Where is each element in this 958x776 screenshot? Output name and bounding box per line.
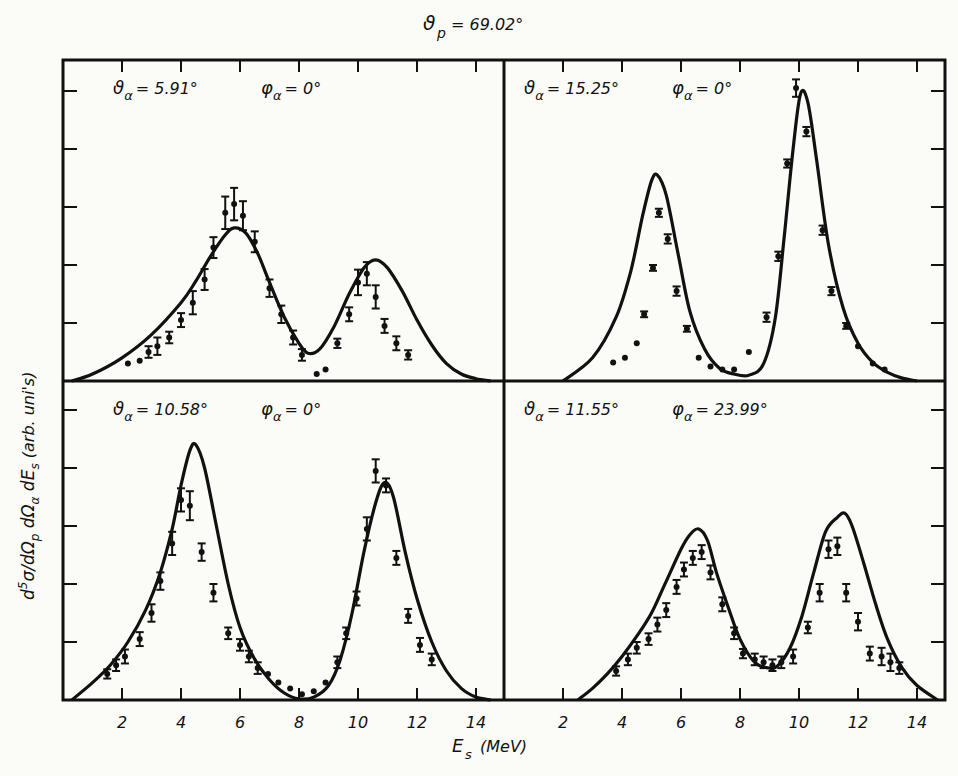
- data-point: [653, 618, 661, 632]
- data-point: [372, 459, 380, 482]
- data-point: [833, 538, 841, 555]
- panel-annotation: ϑα= 10.58°φα= 0°: [113, 398, 321, 424]
- x-tick-label: 2: [117, 713, 127, 732]
- x-axis-label: E s (MeV): [452, 735, 527, 762]
- panel-bottom-left: ϑα= 10.58°φα= 0°: [63, 398, 491, 700]
- data-point: [198, 543, 206, 560]
- x-tick-label: 10: [789, 713, 809, 732]
- data-point: [802, 127, 810, 136]
- x-tick-label: 12: [848, 713, 868, 732]
- x-tick-label: 14: [907, 713, 927, 732]
- phi-alpha-label: φα= 0°: [672, 77, 732, 103]
- data-point: [323, 680, 329, 686]
- x-tick-label: 8: [294, 713, 304, 732]
- data-point: [333, 339, 341, 348]
- data-point: [854, 613, 862, 630]
- data-point: [610, 359, 616, 365]
- data-point: [275, 680, 281, 686]
- data-point: [789, 650, 797, 664]
- panel-annotation: ϑα= 11.55°φα= 23.99°: [524, 398, 768, 424]
- data-point: [221, 197, 229, 229]
- data-point: [640, 311, 648, 317]
- panel-bottom-right: ϑα= 11.55°φα= 23.99°: [524, 398, 945, 700]
- x-tick-label: 4: [176, 713, 186, 732]
- theory-curve: [563, 90, 917, 381]
- panel-annotation: ϑα= 5.91°φα= 0°: [113, 77, 321, 103]
- data-point: [763, 313, 771, 322]
- data-points: [610, 79, 887, 372]
- theory-curve: [72, 443, 491, 700]
- data-point: [311, 688, 317, 694]
- data-point: [696, 355, 702, 361]
- title-symbol: ϑ: [423, 11, 435, 35]
- data-point: [289, 331, 297, 345]
- data-point: [683, 326, 691, 332]
- data-point: [895, 662, 903, 674]
- x-tick-labels: 24681012142468101214: [117, 713, 927, 732]
- data-point: [622, 355, 628, 361]
- x-tick-label: 10: [348, 713, 368, 732]
- data-point: [886, 654, 894, 671]
- data-point: [731, 366, 737, 372]
- panel-top-left: ϑα= 5.91°φα= 0°: [63, 60, 491, 381]
- title-subscript: p: [436, 25, 446, 41]
- data-point: [230, 188, 238, 220]
- data-point: [239, 201, 247, 230]
- data-point: [209, 584, 217, 601]
- theta-alpha-label: ϑα= 15.25°: [524, 77, 619, 103]
- data-point: [381, 319, 389, 333]
- data-point: [156, 572, 164, 589]
- data-point: [649, 265, 657, 271]
- data-point: [299, 691, 305, 697]
- data-point: [189, 291, 197, 314]
- data-point: [251, 231, 259, 252]
- data-point: [842, 323, 850, 329]
- data-point: [866, 647, 874, 661]
- data-point: [392, 551, 400, 565]
- title-value: = 69.02°: [451, 15, 523, 34]
- chart-title: ϑ p = 69.02°: [423, 11, 523, 41]
- theory-curve: [72, 228, 491, 381]
- data-point: [428, 654, 436, 666]
- x-tick-label: 12: [407, 713, 427, 732]
- data-point: [855, 343, 861, 349]
- data-point: [186, 491, 194, 520]
- y-axis-label: d5σ/dΩp dΩα dEs (arb. uni's): [16, 372, 42, 600]
- data-point: [664, 234, 672, 243]
- data-points: [103, 459, 436, 697]
- data-point: [145, 346, 153, 358]
- data-point: [673, 286, 681, 295]
- data-point: [707, 565, 715, 579]
- data-point: [816, 584, 824, 601]
- data-point: [323, 366, 329, 372]
- data-point: [882, 366, 888, 372]
- data-point: [825, 541, 833, 558]
- x-tick-label: 6: [676, 713, 686, 732]
- theory-curve: [578, 513, 938, 700]
- data-point: [870, 361, 876, 367]
- figure: ϑ p = 69.02° d5σ/dΩp dΩα dEs (arb. uni's…: [0, 0, 958, 776]
- data-point: [287, 685, 293, 691]
- data-point: [136, 632, 144, 646]
- plot-frame: [63, 60, 945, 700]
- data-point: [804, 622, 812, 634]
- data-point: [314, 371, 320, 377]
- x-tick-label: 8: [735, 713, 745, 732]
- data-point: [372, 285, 380, 308]
- data-point: [265, 671, 271, 677]
- data-point: [634, 340, 640, 346]
- data-point: [662, 603, 670, 617]
- data-point: [153, 338, 161, 355]
- data-point: [236, 639, 244, 651]
- data-point: [345, 307, 353, 321]
- data-point: [827, 287, 835, 295]
- data-point: [698, 545, 706, 559]
- data-point: [673, 580, 681, 594]
- x-axis-label-unit: (MeV): [480, 737, 527, 756]
- x-tick-label: 14: [466, 713, 486, 732]
- data-point: [878, 648, 886, 665]
- data-point: [254, 662, 262, 674]
- data-point: [655, 209, 663, 217]
- phi-alpha-label: φα= 0°: [261, 77, 321, 103]
- data-point: [680, 563, 688, 577]
